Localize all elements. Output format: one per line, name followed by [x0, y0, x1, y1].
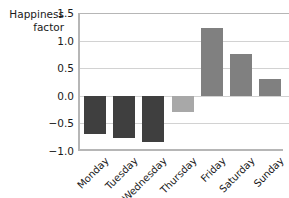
x-axis-ticks: MondayTuesdayWednesdayThursdayFridaySatu…: [78, 153, 283, 198]
bar-sunday: [259, 79, 281, 96]
plot-area: [78, 13, 283, 151]
bar-saturday: [230, 54, 252, 95]
bar-chart: Happiness factor 1.51.00.50.0−0.5−1.0 Mo…: [0, 0, 289, 198]
bar-thursday: [172, 96, 194, 113]
bars-layer: [80, 13, 283, 149]
bar-tuesday: [113, 96, 135, 139]
bar-wednesday: [142, 96, 164, 142]
bar-friday: [201, 28, 223, 95]
bar-monday: [84, 96, 106, 135]
x-tick-label-sunday: Sunday: [252, 155, 286, 189]
